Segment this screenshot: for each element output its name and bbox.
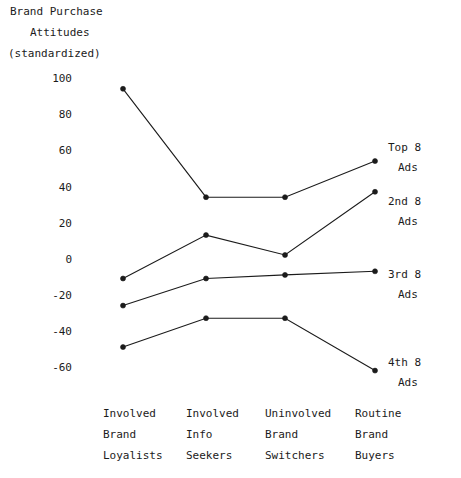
x-axis-category-3-line-2: Brand [265, 429, 298, 440]
data-point [373, 159, 378, 164]
data-point [283, 316, 288, 321]
legend-item-2nd-8-ads-line-2: Ads [398, 216, 418, 227]
chart-container: Brand Purchase Attitudes (standardized) … [0, 0, 461, 478]
series-line-3 [123, 271, 375, 305]
data-point [204, 276, 209, 281]
data-point [121, 276, 126, 281]
data-point [121, 345, 126, 350]
x-axis-category-1-line-1: Involved [103, 408, 156, 419]
legend-item-2nd-8-ads-line-1: 2nd 8 [388, 196, 421, 207]
legend-item-top-8-ads-line-1: Top 8 [388, 142, 421, 153]
data-point [121, 303, 126, 308]
x-axis-category-2-line-2: Info [186, 429, 213, 440]
data-point [283, 272, 288, 277]
data-point [283, 195, 288, 200]
x-axis-category-2-line-3: Seekers [186, 450, 232, 461]
data-point [373, 189, 378, 194]
legend-item-4th-8-ads-line-2: Ads [398, 377, 418, 388]
data-point [373, 368, 378, 373]
x-axis-category-2-line-1: Involved [186, 408, 239, 419]
legend-item-3rd-8-ads-line-2: Ads [398, 289, 418, 300]
series-line-1 [123, 89, 375, 197]
x-axis-category-1-line-3: Loyalists [103, 450, 163, 461]
x-axis-category-3-line-3: Switchers [265, 450, 325, 461]
data-point [204, 233, 209, 238]
x-axis-category-1-line-2: Brand [103, 429, 136, 440]
data-point [204, 316, 209, 321]
x-axis-category-3-line-1: Uninvolved [265, 408, 331, 419]
x-axis-category-4-line-2: Brand [355, 429, 388, 440]
data-point [283, 253, 288, 258]
legend-item-top-8-ads-line-2: Ads [398, 162, 418, 173]
x-axis-category-4-line-1: Routine [355, 408, 401, 419]
series-line-4 [123, 318, 375, 370]
data-point [121, 86, 126, 91]
series-line-2 [123, 192, 375, 279]
x-axis-category-4-line-3: Buyers [355, 450, 395, 461]
data-point [204, 195, 209, 200]
legend-item-4th-8-ads-line-1: 4th 8 [388, 357, 421, 368]
data-point [373, 269, 378, 274]
legend-item-3rd-8-ads-line-1: 3rd 8 [388, 269, 421, 280]
